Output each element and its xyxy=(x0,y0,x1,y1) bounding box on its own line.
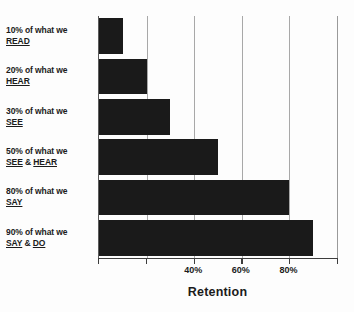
tick-mark xyxy=(194,258,195,264)
category-label-see: 30% of what we SEE xyxy=(6,97,98,137)
category-keyword-say: SAY xyxy=(6,238,22,248)
category-keyword-read: READ xyxy=(6,36,30,46)
category-label-line1: 50% of what we xyxy=(6,146,98,157)
category-label-column: 10% of what we READ 20% of what we HEAR … xyxy=(6,16,98,258)
tick-mark xyxy=(146,258,147,264)
category-label-line2: SEE xyxy=(6,117,98,128)
bar-row xyxy=(99,177,337,217)
category-keyword-hear: HEAR xyxy=(6,76,30,86)
category-label-line2: SEE & HEAR xyxy=(6,157,98,168)
bar xyxy=(99,59,147,94)
bar xyxy=(99,139,218,174)
category-label-line2: HEAR xyxy=(6,76,98,87)
category-label-line1: 80% of what we xyxy=(6,186,98,197)
category-keyword-see: SEE xyxy=(6,157,23,167)
category-label-say-and-do: 90% of what we SAY & DO xyxy=(6,218,98,258)
category-label-read: 10% of what we READ xyxy=(6,16,98,56)
category-label-line1: 10% of what we xyxy=(6,25,98,36)
tick-mark xyxy=(98,258,99,264)
plot-area xyxy=(98,16,337,259)
retention-bar-chart: 10% of what we READ 20% of what we HEAR … xyxy=(0,0,354,312)
bar-series xyxy=(99,16,337,258)
bar xyxy=(99,180,289,215)
bar-row xyxy=(99,137,337,177)
x-axis-tick-labels: 40%60%80% xyxy=(0,265,354,279)
tick-mark xyxy=(241,258,242,264)
bar-row xyxy=(99,16,337,56)
category-label-say: 80% of what we SAY xyxy=(6,177,98,217)
bar-row xyxy=(99,218,337,258)
tick-mark xyxy=(289,258,290,264)
tick-label: 60% xyxy=(232,265,250,275)
category-keyword-do: DO xyxy=(33,238,46,248)
bar xyxy=(99,99,170,134)
category-keyword-see: SEE xyxy=(6,117,23,127)
category-label-line1: 30% of what we xyxy=(6,106,98,117)
bar-row xyxy=(99,97,337,137)
category-label-line2: SAY & DO xyxy=(6,238,98,249)
x-axis-ticks xyxy=(98,258,337,265)
tick-label: 40% xyxy=(184,265,202,275)
category-keyword-separator: & xyxy=(22,238,33,248)
category-label-line1: 90% of what we xyxy=(6,227,98,238)
category-label-line2: SAY xyxy=(6,197,98,208)
bar xyxy=(99,220,313,255)
bar-row xyxy=(99,56,337,96)
category-keyword-hear: HEAR xyxy=(33,157,57,167)
category-label-line1: 20% of what we xyxy=(6,65,98,76)
bar xyxy=(99,18,123,53)
category-keyword-separator: & xyxy=(23,157,34,167)
gridline xyxy=(337,16,338,258)
tick-label: 80% xyxy=(279,265,297,275)
category-label-see-and-hear: 50% of what we SEE & HEAR xyxy=(6,137,98,177)
category-label-line2: READ xyxy=(6,36,98,47)
category-keyword-say: SAY xyxy=(6,197,22,207)
tick-mark xyxy=(337,258,338,264)
x-axis-title: Retention xyxy=(98,285,337,299)
category-label-hear: 20% of what we HEAR xyxy=(6,56,98,96)
